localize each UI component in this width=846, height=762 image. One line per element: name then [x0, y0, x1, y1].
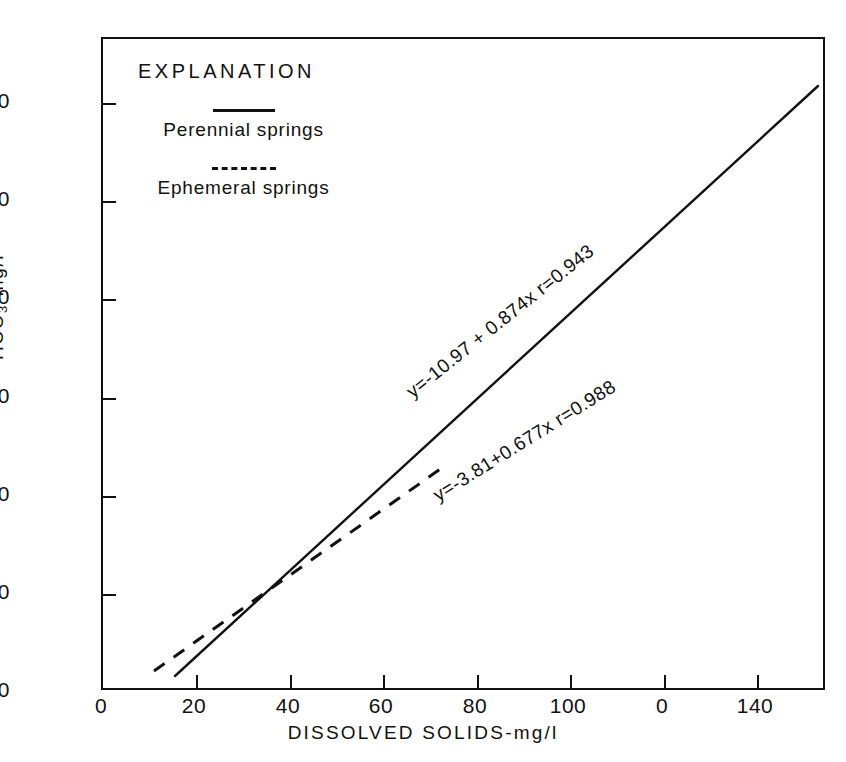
legend-label-perennial: Perennial springs: [136, 119, 351, 141]
x-tick-label-20: 20: [154, 694, 234, 718]
x-tick-120: [664, 675, 666, 688]
x-tick-20: [196, 675, 198, 688]
y-tick-80: [103, 299, 116, 301]
x-tick-80: [477, 675, 479, 688]
y-tick-40: [103, 496, 116, 498]
x-tick-140: [757, 675, 759, 688]
y-axis-title-subscript: 3: [0, 304, 10, 313]
x-tick-label-40: 40: [248, 694, 328, 718]
legend-title: EXPLANATION: [138, 60, 396, 83]
x-tick-label-0: 0: [61, 694, 141, 718]
legend-entry-ephemeral: Ephemeral springs: [136, 167, 351, 199]
y-tick-60: [103, 398, 116, 400]
y-tick-label-60: 60: [0, 384, 10, 408]
y-tick-label-20: 20: [0, 580, 10, 604]
y-tick-label-0: 0: [0, 678, 10, 702]
x-axis-title: DISSOLVED SOLIDS-mg/l: [0, 722, 846, 744]
x-tick-100: [570, 675, 572, 688]
legend-label-ephemeral: Ephemeral springs: [136, 177, 351, 199]
y-tick-20: [103, 594, 116, 596]
y-tick-label-40: 40: [0, 482, 10, 506]
legend-entry-perennial: Perennial springs: [136, 109, 351, 141]
y-axis-title: HCO3-mg/l: [0, 320, 8, 360]
y-axis-title-units: -mg/l: [0, 254, 7, 304]
y-axis-title-base: HCO: [0, 313, 7, 360]
y-tick-label-100: 100: [0, 187, 10, 211]
y-tick-120: [103, 103, 116, 105]
x-tick-label-60: 60: [341, 694, 421, 718]
y-tick-100: [103, 201, 116, 203]
dashed-line-sample-icon: [212, 167, 276, 170]
x-tick-label-120: 0: [622, 694, 702, 718]
x-tick-label-80: 80: [435, 694, 515, 718]
y-tick-label-120: 120: [0, 89, 10, 113]
solid-line-sample-icon: [213, 109, 275, 112]
chart-figure: 0 20 40 60 80 100 120 0 20 40 60 80 100 …: [0, 0, 846, 762]
x-tick-60: [383, 675, 385, 688]
legend: EXPLANATION Perennial springs Ephemeral …: [136, 60, 396, 199]
x-tick-40: [290, 675, 292, 688]
x-tick-label-100: 100: [528, 694, 608, 718]
x-tick-label-140: 140: [715, 694, 795, 718]
